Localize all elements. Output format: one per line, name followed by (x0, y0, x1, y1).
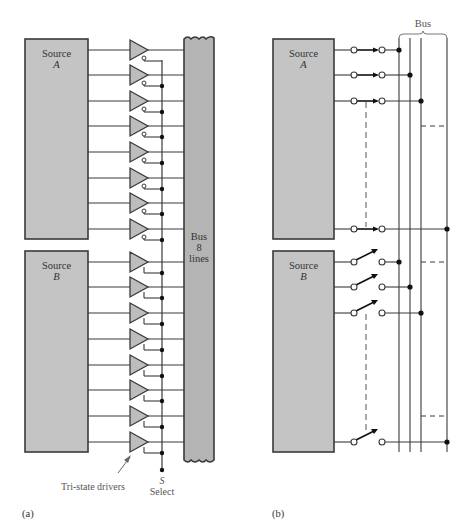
tri-state-drivers-label: Tri-state drivers (61, 481, 125, 492)
tri-state-driver (88, 303, 184, 326)
tri-state-driver (88, 193, 184, 216)
buffer-triangle-icon (130, 277, 148, 297)
junction-dot (160, 348, 164, 352)
select-symbol: S (160, 475, 165, 486)
source-b-title: Source (42, 260, 71, 271)
inversion-bubble-icon (142, 158, 146, 162)
bus-brace (399, 31, 447, 38)
junction-dot (160, 425, 164, 429)
tri-state-driver (88, 40, 184, 61)
switch-terminal-icon (351, 47, 357, 53)
inversion-bubble-icon (142, 56, 146, 60)
tri-state-arrowhead-icon (124, 455, 131, 463)
caption-b: (b) (272, 508, 285, 520)
switch-terminal-icon (379, 259, 385, 265)
junction-dot (418, 310, 423, 315)
inversion-bubble-icon (142, 132, 146, 136)
inversion-bubble-icon (142, 184, 146, 188)
tri-state-driver (88, 277, 184, 300)
junction-dot (160, 238, 164, 242)
switch-terminal-icon (351, 98, 357, 104)
bus-label: Bus (415, 18, 431, 29)
junction-dot (160, 451, 164, 455)
switch-arrow-icon (373, 99, 379, 104)
switch-terminal-icon (379, 47, 385, 53)
switch-terminal-icon (379, 98, 385, 104)
switch-terminal-icon (379, 284, 385, 290)
inversion-bubble-icon (142, 107, 146, 111)
caption-a: (a) (22, 508, 34, 520)
junction-dot (407, 284, 412, 289)
junction-dot (160, 399, 164, 403)
buffer-triangle-icon (130, 432, 148, 452)
open-switch (334, 274, 413, 290)
buffer-triangle-icon (130, 406, 148, 426)
junction-dot (396, 47, 401, 52)
bus-diagram: Source A Source B Bus 8 lines S Select T… (0, 0, 472, 531)
junction-dot (160, 212, 164, 216)
junction-dot (160, 187, 164, 191)
tri-state-driver (88, 168, 184, 191)
junction-dot (444, 439, 449, 444)
tri-state-driver (88, 219, 184, 242)
tri-state-driver (88, 116, 184, 139)
tri-state-driver (88, 432, 184, 455)
closed-switch (334, 47, 402, 53)
bus-label-line1: Bus (191, 231, 207, 242)
junction-dot (444, 226, 449, 231)
source-b-letter-b: B (300, 271, 307, 282)
junction-dot (160, 110, 164, 114)
junction-dot (160, 374, 164, 378)
tri-state-driver (88, 65, 184, 88)
bus-label-line2: 8 (196, 242, 201, 253)
switch-terminal-icon (351, 226, 357, 232)
tri-state-driver (88, 91, 184, 114)
inversion-bubble-icon (142, 209, 146, 213)
source-b-title-b: Source (289, 260, 318, 271)
junction-dot (160, 161, 164, 165)
source-b-drivers (88, 252, 184, 455)
switch-terminal-icon (351, 310, 357, 316)
select-terminal (160, 468, 164, 472)
switch-terminal-icon (351, 439, 357, 445)
junction-dot (160, 322, 164, 326)
junction-dot (160, 84, 164, 88)
switches (334, 47, 450, 445)
switch-terminal-icon (379, 439, 385, 445)
junction-dot (418, 98, 423, 103)
switch-arrow-icon (373, 73, 379, 78)
tri-state-driver (88, 380, 184, 403)
closed-switch (334, 226, 450, 232)
inversion-bubble-icon (142, 81, 146, 85)
closed-switch (334, 72, 413, 78)
switch-terminal-icon (379, 226, 385, 232)
switch-terminal-icon (351, 72, 357, 78)
open-switch (334, 429, 450, 445)
buffer-triangle-icon (130, 380, 148, 400)
switch-arrow-icon (373, 227, 379, 232)
source-a-title-b: Source (289, 48, 318, 59)
source-b-letter: B (53, 271, 60, 282)
junction-dot (160, 296, 164, 300)
junction-dot (407, 72, 412, 77)
buffer-triangle-icon (130, 355, 148, 375)
source-a-title: Source (42, 48, 71, 59)
buffer-triangle-icon (130, 252, 148, 272)
bus-label-line3: lines (189, 253, 209, 264)
tri-state-driver (88, 406, 184, 429)
tri-state-driver (88, 252, 184, 275)
switch-terminal-icon (379, 72, 385, 78)
tri-state-driver (88, 329, 184, 352)
switch-terminal-icon (379, 310, 385, 316)
junction-dot (396, 259, 401, 264)
buffer-triangle-icon (130, 303, 148, 323)
source-a-letter-b: A (299, 59, 307, 70)
junction-dot (160, 135, 164, 139)
open-switch (334, 249, 402, 265)
switch-terminal-icon (351, 284, 357, 290)
switch-arrow-icon (373, 48, 379, 53)
source-a-drivers (88, 40, 184, 242)
panel-b: Bus Source A Source B (b) (272, 18, 450, 520)
source-a-letter: A (52, 59, 60, 70)
inversion-bubble-icon (142, 235, 146, 239)
